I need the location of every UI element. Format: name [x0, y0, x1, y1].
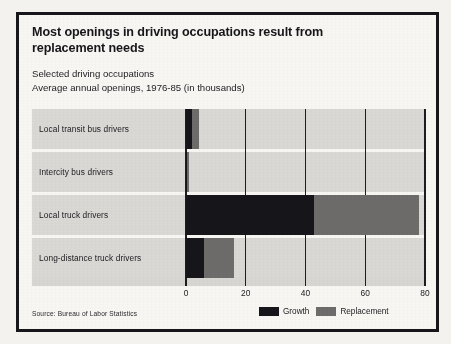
category-label: Long-distance truck drivers: [39, 253, 141, 263]
legend-item-replacement: Replacement: [316, 307, 388, 316]
x-tick-label: 40: [301, 288, 310, 298]
category-label: Local transit bus drivers: [39, 124, 129, 134]
bar-segment-growth: [186, 195, 314, 235]
category-label: Intercity bus drivers: [39, 167, 113, 177]
chart-card: Most openings in driving occupations res…: [16, 12, 439, 332]
source-note: Source: Bureau of Labor Statistics: [32, 310, 137, 317]
bar-segment-replacement: [192, 109, 199, 149]
legend-item-growth: Growth: [259, 307, 309, 316]
x-tick-label: 20: [241, 288, 250, 298]
figure-root: Most openings in driving occupations res…: [0, 0, 451, 344]
gridline: [424, 109, 425, 286]
x-axis-tick-labels: 020406080: [32, 288, 425, 302]
chart-legend: Growth Replacement: [259, 307, 389, 316]
legend-label-replacement: Replacement: [340, 307, 388, 316]
plot-area: Local transit bus driversIntercity bus d…: [32, 109, 425, 286]
bar-segment-growth: [186, 238, 204, 278]
chart-subtitle-line-1: Selected driving occupations: [32, 67, 372, 81]
chart-subtitle: Selected driving occupations Average ann…: [32, 67, 372, 94]
legend-swatch-growth-icon: [259, 307, 279, 316]
x-tick-label: 60: [361, 288, 370, 298]
legend-swatch-replacement-icon: [316, 307, 336, 316]
legend-label-growth: Growth: [283, 307, 309, 316]
bar-segment-replacement: [204, 238, 234, 278]
category-label: Local truck drivers: [39, 210, 108, 220]
bar-segment-replacement: [187, 152, 189, 192]
bar-segment-replacement: [314, 195, 419, 235]
x-tick-label: 80: [420, 288, 429, 298]
chart-subtitle-line-2: Average annual openings, 1976-85 (in tho…: [32, 81, 372, 95]
chart-card-inner: Most openings in driving occupations res…: [19, 15, 436, 329]
chart-title: Most openings in driving occupations res…: [32, 24, 377, 56]
x-tick-label: 0: [184, 288, 189, 298]
